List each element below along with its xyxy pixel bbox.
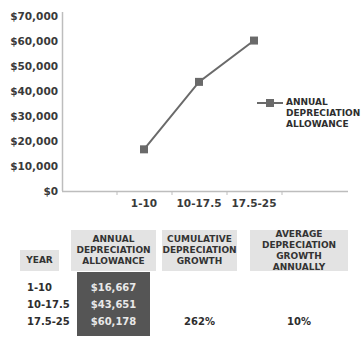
header-year-label: YEAR	[26, 255, 53, 266]
header-label: ALLOWANCE	[82, 256, 145, 267]
row-cumulative: 262%	[162, 316, 237, 327]
header-label: GROWTH	[177, 256, 223, 267]
header-year: YEAR	[20, 250, 59, 271]
series-annual-depreciation	[140, 37, 258, 154]
header-label: DEPRECIATION	[162, 245, 236, 256]
row-annual: $43,651	[77, 299, 150, 310]
legend-label: ANNUAL	[286, 97, 360, 108]
header-cumulative: CUMULATIVE DEPRECIATION GROWTH	[162, 230, 237, 271]
header-annual: ANNUAL DEPRECIATION ALLOWANCE	[71, 230, 156, 271]
x-tick-label: 1-10	[131, 197, 157, 209]
legend-label: DEPRECIATION	[286, 108, 360, 119]
data-point-square-icon	[140, 145, 148, 153]
legend-line-square-icon	[256, 97, 284, 109]
header-label: DEPRECIATION	[76, 245, 150, 256]
header-label: GROWTH ANNUALLY	[250, 251, 348, 273]
header-label: ANNUAL	[93, 234, 135, 245]
legend-label: ALLOWANCE	[286, 119, 360, 130]
header-label: CUMULATIVE	[167, 234, 232, 245]
row-average: 10%	[250, 316, 348, 327]
header-label: DEPRECIATION	[262, 240, 336, 251]
header-average: AVERAGE DEPRECIATION GROWTH ANNUALLY	[250, 230, 348, 271]
row-annual: $16,667	[77, 282, 150, 293]
row-annual: $60,178	[77, 316, 150, 327]
x-tick-label: 17.5-25	[232, 197, 277, 209]
data-point-square-icon	[250, 37, 258, 45]
data-point-square-icon	[195, 78, 203, 86]
header-label: AVERAGE	[276, 229, 323, 240]
row-year: 17.5-25	[27, 316, 70, 327]
row-year: 10-17.5	[27, 299, 70, 310]
x-tick-label: 10-17.5	[177, 197, 222, 209]
series-line	[144, 41, 254, 150]
legend: ANNUAL DEPRECIATION ALLOWANCE	[286, 97, 360, 130]
row-year: 1-10	[27, 282, 52, 293]
